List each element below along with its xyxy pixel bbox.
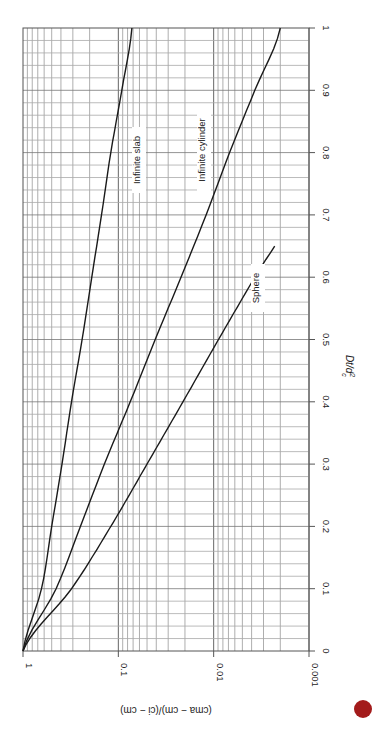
y-axis-label: (cma − cm)/(ci − cm) — [120, 705, 212, 716]
red-marker-dot — [354, 700, 372, 718]
x-tick-label: 0.7 — [321, 208, 332, 221]
grid-lines — [23, 28, 309, 651]
x-tick-label: 0.3 — [321, 457, 332, 470]
x-tick-label: 1 — [321, 25, 332, 30]
x-tick-label: 0.6 — [321, 271, 332, 284]
x-tick-label: 0.1 — [321, 582, 332, 595]
curve-label: Infinite cylinder — [196, 118, 207, 181]
x-tick-label: 0.9 — [321, 84, 332, 97]
y-tick-label: 0.01 — [215, 663, 226, 682]
axis-ticks: 10.10.010.00100.10.20.30.40.50.60.70.80.… — [23, 25, 332, 686]
y-tick-label: 0.1 — [119, 663, 130, 676]
x-tick-label: 0.5 — [321, 333, 332, 346]
x-tick-label: 0.2 — [321, 520, 332, 533]
y-tick-label: 1 — [24, 663, 35, 668]
x-tick-label: 0 — [321, 648, 332, 653]
x-axis-label: Dt/d2c — [341, 355, 356, 377]
curve-label: Sphere — [250, 273, 261, 304]
curve-label: Infinite slab — [131, 136, 142, 184]
curve-labels: Infinite slabInfinite cylinderSphere — [131, 118, 261, 303]
x-tick-label: 0.8 — [321, 146, 332, 159]
y-tick-label: 0.001 — [310, 663, 321, 687]
axis-labels: (cma − cm)/(ci − cm)Dt/d2c — [120, 355, 356, 716]
x-tick-label: 0.4 — [321, 395, 332, 408]
